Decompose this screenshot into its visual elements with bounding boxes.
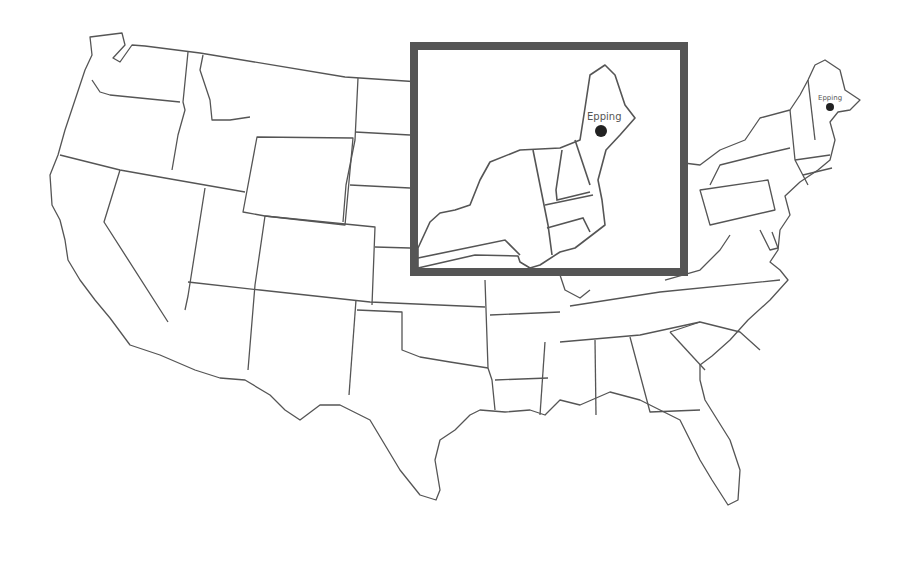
us-map: Epping Epping [0,0,912,570]
epping-label-small: Epping [818,94,842,102]
epping-label-inset: Epping [587,111,621,122]
epping-dot [826,103,834,111]
northeast-inset: Epping [414,46,684,272]
epping-dot-inset [595,125,607,137]
